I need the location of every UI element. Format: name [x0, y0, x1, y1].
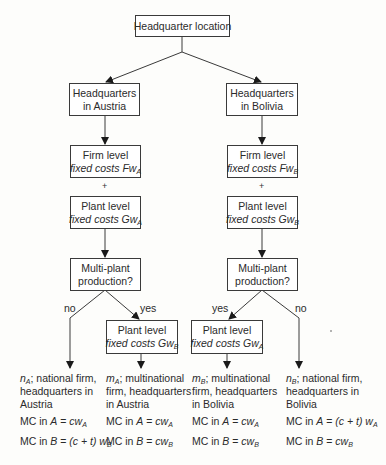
hq-austria-node: Headquarters in Austria [69, 83, 140, 116]
outcome-national-bolivia: nB; national firm, headquarters in Boliv… [286, 372, 378, 411]
node-label: fixed costs GwB [106, 337, 179, 350]
multi-plant-decision-bolivia-node: Multi-plant production? [227, 258, 298, 291]
yes-label: yes [212, 302, 228, 314]
mc-in-a: MC in A = (c + t) wA [286, 415, 378, 427]
node-label: Firm level [240, 149, 286, 162]
no-label: no [64, 302, 76, 314]
extra-plant-costs-bolivia-node: Plant level fixed costs GwA [191, 320, 263, 354]
headquarter-location-node: Headquarter location [135, 15, 230, 37]
outcome-multinational-bolivia: mB; multinational firm, headquarters in … [192, 372, 284, 411]
plus-sign: + [259, 181, 264, 191]
mc-in-a: MC in A = cwA [106, 415, 173, 427]
node-label: Headquarters [73, 87, 137, 100]
mc-in-a: MC in A = cwA [192, 415, 259, 427]
plant-fixed-costs-bolivia-node: Plant level fixed costs GwB [227, 196, 298, 229]
no-label: no [295, 302, 307, 314]
node-label: Multi-plant [238, 262, 286, 275]
mc-in-b: MC in B = (c + t) wB [20, 435, 112, 447]
multi-plant-decision-austria-node: Multi-plant production? [70, 258, 141, 291]
node-label: fixed costs GwA [69, 213, 142, 226]
node-label: in Bolivia [241, 100, 283, 113]
node-label: fixed costs GwA [191, 337, 264, 350]
mc-in-a: MC in A = cwA [20, 415, 87, 427]
mc-in-b: MC in B = cwB [192, 435, 259, 447]
node-label: Plant level [81, 200, 129, 213]
hq-bolivia-node: Headquarters in Bolivia [226, 83, 298, 116]
outcome-multinational-austria: mA; multinational firm, headquarters in … [106, 372, 198, 411]
node-label: fixed costs GwB [226, 213, 299, 226]
firm-fixed-costs-bolivia-node: Firm level fixed costs FwB [227, 145, 298, 178]
yes-label: yes [140, 302, 156, 314]
node-label: Firm level [83, 149, 129, 162]
node-label: fixed costs FwA [70, 162, 141, 175]
mc-in-b: MC in B = cwB [286, 435, 353, 447]
node-label: fixed costs FwB [227, 162, 298, 175]
node-label: Plant level [203, 324, 251, 337]
node-label: production? [235, 275, 290, 288]
outcome-national-austria: nA; national firm, headquarters in Austr… [20, 372, 112, 411]
plus-sign: + [102, 181, 107, 191]
firm-fixed-costs-austria-node: Firm level fixed costs FwA [70, 145, 141, 178]
node-label: in Austria [83, 100, 126, 113]
node-label: Headquarters [230, 87, 294, 100]
plant-fixed-costs-austria-node: Plant level fixed costs GwA [70, 196, 141, 229]
node-label: Multi-plant [81, 262, 129, 275]
extra-plant-costs-austria-node: Plant level fixed costs GwB [106, 320, 178, 354]
node-label: Plant level [118, 324, 166, 337]
mc-in-b: MC in B = cwB [106, 435, 173, 447]
node-label: Headquarter location [134, 20, 231, 33]
node-label: production? [78, 275, 133, 288]
node-label: Plant level [238, 200, 286, 213]
